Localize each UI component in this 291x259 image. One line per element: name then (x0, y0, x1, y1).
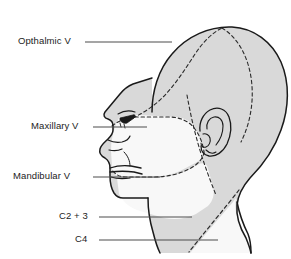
label-ophthalmic: Opthalmic V (18, 36, 71, 46)
label-c4: C4 (75, 234, 87, 244)
anatomical-figure: Opthalmic V Maxillary V Mandibular V C2 … (0, 0, 291, 259)
label-c2-c3: C2 + 3 (59, 211, 88, 221)
label-mandibular: Mandibular V (13, 171, 70, 181)
label-maxillary: Maxillary V (31, 121, 79, 131)
